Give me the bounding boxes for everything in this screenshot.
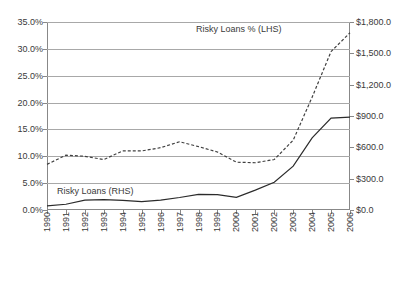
- chart-container: 0.0%5.0%10.0%15.0%20.0%25.0%30.0%35.0% $…: [0, 0, 407, 284]
- x-tick-label: 1994: [118, 212, 128, 232]
- x-tick-label: 1997: [175, 212, 185, 232]
- right-tick: [350, 85, 354, 86]
- left-tick-label: 0.0%: [22, 205, 43, 215]
- right-tick: [350, 147, 354, 148]
- plot-area: [47, 22, 350, 210]
- series-lines: [47, 22, 350, 210]
- x-tick-label: 2004: [307, 212, 317, 232]
- x-tick-label: 2005: [326, 212, 336, 232]
- x-tick-label: 2002: [269, 212, 279, 232]
- left-tick-label: 20.0%: [17, 98, 43, 108]
- left-tick-label: 35.0%: [17, 17, 43, 27]
- x-tick-label: 1991: [61, 212, 71, 232]
- right-tick-label: $1,200.0: [356, 80, 391, 90]
- right-tick-label: $300.0: [356, 174, 384, 184]
- x-tick-label: 1990: [42, 212, 52, 232]
- left-tick-label: 15.0%: [17, 124, 43, 134]
- right-tick-label: $900.0: [356, 111, 384, 121]
- x-axis-labels: 1990199119921993199419951996199719981999…: [47, 212, 350, 282]
- left-tick-label: 30.0%: [17, 44, 43, 54]
- x-tick-label: 1995: [137, 212, 147, 232]
- x-tick-label: 1993: [99, 212, 109, 232]
- left-tick-label: 25.0%: [17, 71, 43, 81]
- x-tick-label: 2000: [231, 212, 241, 232]
- x-tick-label: 2003: [288, 212, 298, 232]
- left-tick-label: 10.0%: [17, 151, 43, 161]
- right-tick-label: $600.0: [356, 142, 384, 152]
- right-tick-label: $1,800.0: [356, 17, 391, 27]
- x-tick-label: 1999: [212, 212, 222, 232]
- series-label-lhs: Risky Loans % (LHS): [196, 24, 282, 34]
- x-tick-label: 2006: [345, 212, 355, 232]
- series-label-rhs: Risky Loans (RHS): [57, 186, 134, 196]
- right-tick-label: $0.0: [356, 205, 374, 215]
- left-axis-labels: 0.0%5.0%10.0%15.0%20.0%25.0%30.0%35.0%: [0, 22, 43, 210]
- right-tick: [350, 179, 354, 180]
- series-path-lhs: [47, 33, 350, 165]
- x-tick-label: 1996: [156, 212, 166, 232]
- x-tick-label: 1992: [80, 212, 90, 232]
- right-tick: [350, 53, 354, 54]
- right-tick: [350, 22, 354, 23]
- right-axis-labels: $0.0$300.0$600.0$900.0$1,200.0$1,500.0$1…: [356, 22, 407, 210]
- x-tick-label: 1998: [194, 212, 204, 232]
- x-tick-label: 2001: [250, 212, 260, 232]
- left-tick-label: 5.0%: [22, 178, 43, 188]
- right-tick-label: $1,500.0: [356, 48, 391, 58]
- right-tick: [350, 116, 354, 117]
